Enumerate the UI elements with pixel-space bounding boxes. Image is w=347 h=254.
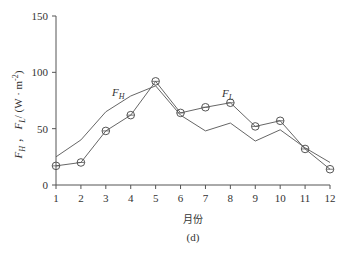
figure-caption: (d) bbox=[187, 231, 200, 244]
y-tick-label: 0 bbox=[43, 179, 49, 191]
x-tick-label: 4 bbox=[128, 192, 134, 204]
series-group bbox=[52, 78, 334, 173]
x-tick-label: 9 bbox=[253, 192, 259, 204]
line-chart: 050100150123456789101112 FHFLFH ， FL/ (W… bbox=[0, 0, 347, 254]
x-tick-label: 11 bbox=[300, 192, 311, 204]
x-tick-label: 2 bbox=[78, 192, 84, 204]
x-tick-label: 7 bbox=[203, 192, 209, 204]
y-tick-label: 150 bbox=[32, 10, 49, 22]
x-tick-label: 8 bbox=[228, 192, 234, 204]
x-axis-title: 月份 bbox=[183, 214, 203, 225]
series-line-f-h bbox=[56, 86, 330, 163]
x-tick-label: 10 bbox=[275, 192, 287, 204]
labels: FHFLFH ， FL/ (W · m-2)月份(d) bbox=[11, 70, 234, 244]
series-label-f-h: FH bbox=[111, 86, 126, 101]
y-tick-label: 50 bbox=[37, 123, 49, 135]
x-tick-label: 5 bbox=[153, 192, 159, 204]
series-line-f-l bbox=[56, 81, 330, 169]
y-axis-title: FH ， FL/ (W · m-2) bbox=[11, 70, 27, 159]
x-tick-label: 6 bbox=[178, 192, 184, 204]
y-tick-label: 100 bbox=[32, 66, 49, 78]
axes: 050100150123456789101112 bbox=[32, 10, 336, 204]
x-tick-label: 1 bbox=[53, 192, 59, 204]
x-tick-label: 12 bbox=[325, 192, 336, 204]
x-tick-label: 3 bbox=[103, 192, 109, 204]
